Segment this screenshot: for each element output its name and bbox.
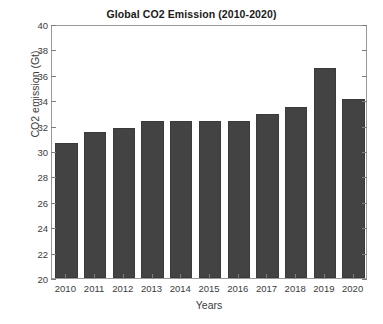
y-tick-label-22: 22	[8, 248, 48, 259]
x-tick-mark-2019	[324, 274, 325, 279]
y-tick-mark-40	[51, 25, 56, 26]
bar-2011	[84, 132, 106, 278]
y-tick-label-26: 26	[8, 197, 48, 208]
y-tick-mark-right-24	[362, 228, 367, 229]
bar-series	[52, 26, 366, 278]
plot-area	[51, 25, 367, 279]
y-tick-mark-38	[51, 50, 56, 51]
y-tick-mark-right-30	[362, 152, 367, 153]
y-tick-mark-30	[51, 152, 56, 153]
y-tick-label-30: 30	[8, 147, 48, 158]
x-tick-mark-2011	[94, 274, 95, 279]
y-tick-label-24: 24	[8, 223, 48, 234]
x-tick-mark-2015	[209, 274, 210, 279]
bar-2015	[199, 121, 221, 278]
figure-canvas: Global CO2 Emission (2010-2020) Years CO…	[0, 0, 383, 324]
x-tick-mark-2012	[123, 274, 124, 279]
y-tick-mark-24	[51, 228, 56, 229]
y-tick-mark-right-28	[362, 177, 367, 178]
y-tick-label-28: 28	[8, 172, 48, 183]
bar-2014	[170, 121, 192, 278]
chart-title: Global CO2 Emission (2010-2020)	[0, 8, 383, 20]
y-tick-mark-26	[51, 203, 56, 204]
x-tick-mark-2014	[180, 274, 181, 279]
bar-2013	[141, 121, 163, 278]
y-tick-mark-32	[51, 127, 56, 128]
y-tick-mark-28	[51, 177, 56, 178]
y-tick-mark-right-32	[362, 127, 367, 128]
y-tick-label-20: 20	[8, 274, 48, 285]
y-tick-label-34: 34	[8, 96, 48, 107]
y-tick-mark-right-34	[362, 101, 367, 102]
y-tick-label-32: 32	[8, 121, 48, 132]
bar-2017	[256, 114, 278, 278]
y-tick-label-38: 38	[8, 45, 48, 56]
y-tick-mark-20	[51, 279, 56, 280]
x-tick-mark-2018	[295, 274, 296, 279]
y-tick-label-36: 36	[8, 70, 48, 81]
y-tick-mark-right-26	[362, 203, 367, 204]
y-tick-label-40: 40	[8, 20, 48, 31]
x-axis-title: Years	[51, 299, 367, 311]
y-tick-mark-right-20	[362, 279, 367, 280]
y-tick-mark-right-22	[362, 254, 367, 255]
y-tick-mark-36	[51, 76, 56, 77]
y-tick-mark-34	[51, 101, 56, 102]
bar-2012	[113, 128, 135, 278]
x-tick-label-2020: 2020	[333, 283, 373, 294]
x-tick-mark-2020	[353, 274, 354, 279]
x-tick-mark-2010	[65, 274, 66, 279]
y-tick-mark-right-38	[362, 50, 367, 51]
bar-2010	[55, 143, 77, 278]
y-tick-mark-22	[51, 254, 56, 255]
x-tick-mark-2017	[266, 274, 267, 279]
bar-2019	[314, 68, 336, 278]
x-tick-mark-2013	[152, 274, 153, 279]
x-tick-mark-2016	[238, 274, 239, 279]
y-tick-mark-right-40	[362, 25, 367, 26]
y-tick-mark-right-36	[362, 76, 367, 77]
bar-2016	[228, 121, 250, 278]
bar-2018	[285, 107, 307, 278]
